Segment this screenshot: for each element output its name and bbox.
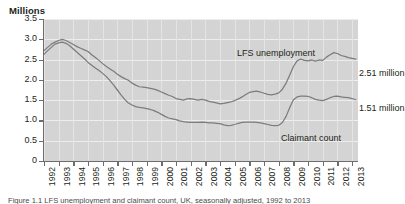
x-tick	[308, 162, 309, 166]
lfs-series-label: LFS unemployment	[237, 48, 315, 58]
x-tick	[176, 162, 177, 166]
y-tick-label: 3.0	[7, 33, 37, 43]
y-tick-label: 1.0	[7, 114, 37, 124]
x-tick	[220, 162, 221, 166]
x-tick-label: 1999	[150, 167, 160, 186]
x-tick	[264, 162, 265, 166]
x-tick	[337, 162, 338, 166]
y-tick-label: 2.0	[7, 74, 37, 84]
x-tick-label: 2012	[341, 167, 351, 186]
x-tick	[103, 162, 104, 166]
y-tick	[39, 120, 43, 121]
x-tick	[323, 162, 324, 166]
x-tick-label: 1996	[106, 167, 116, 186]
x-tick	[249, 162, 250, 166]
figure-caption: Figure 1.1 LFS unemployment and claimant…	[8, 196, 398, 204]
y-tick	[39, 100, 43, 101]
x-tick-label: 2005	[238, 167, 248, 186]
x-tick-label: 2011	[326, 167, 336, 185]
x-tick	[279, 162, 280, 166]
y-tick-label: 0.5	[7, 135, 37, 145]
y-tick-label: 3.5	[7, 13, 37, 23]
x-tick	[44, 162, 45, 166]
y-tick	[39, 60, 43, 61]
y-tick	[39, 19, 43, 20]
x-tick	[161, 162, 162, 166]
x-tick-label: 1998	[135, 167, 145, 186]
x-tick-label: 2007	[267, 167, 277, 186]
x-tick-label: 2008	[282, 167, 292, 186]
x-tick	[293, 162, 294, 166]
y-tick	[39, 80, 43, 81]
x-tick	[191, 162, 192, 166]
x-tick-label: 1995	[91, 167, 101, 186]
x-axis-line	[43, 161, 358, 162]
x-tick	[73, 162, 74, 166]
x-tick-label: 2000	[165, 167, 175, 186]
x-tick	[205, 162, 206, 166]
claimant-end-value-callout: 1.51 million	[359, 103, 405, 113]
y-tick-label: 2.5	[7, 54, 37, 64]
x-tick-label: 2001	[179, 167, 189, 186]
x-tick	[59, 162, 60, 166]
x-tick	[132, 162, 133, 166]
y-tick	[39, 141, 43, 142]
y-tick-label: 1.5	[7, 94, 37, 104]
x-tick-label: 2009	[297, 167, 307, 186]
x-tick	[235, 162, 236, 166]
x-tick-label: 2013	[356, 167, 366, 186]
x-tick-label: 2006	[253, 167, 263, 186]
x-tick-label: 2002	[194, 167, 204, 186]
x-tick	[352, 162, 353, 166]
x-tick-label: 2010	[312, 167, 322, 186]
y-tick	[39, 161, 43, 162]
x-tick	[88, 162, 89, 166]
y-axis-line	[43, 19, 44, 161]
y-tick	[39, 39, 43, 40]
x-tick-label: 2003	[209, 167, 219, 186]
x-tick-label: 1997	[121, 167, 131, 186]
y-tick-label: 0	[7, 155, 37, 165]
x-tick-label: 2004	[223, 167, 233, 186]
x-tick	[117, 162, 118, 166]
x-tick-label: 1994	[77, 167, 87, 186]
claimant-series-label: Claimant count	[281, 133, 341, 143]
x-tick	[147, 162, 148, 166]
x-tick-label: 1993	[62, 167, 72, 186]
x-tick-label: 1992	[47, 167, 57, 186]
lfs-end-value-callout: 2.51 million	[359, 68, 405, 78]
